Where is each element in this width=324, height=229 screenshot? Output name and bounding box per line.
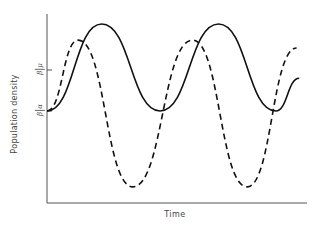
tick-label-lower: β α <box>35 104 45 116</box>
dashed-series-line <box>47 40 297 187</box>
tick-upper-denominator: β <box>36 71 44 75</box>
fraction-bar <box>35 69 45 70</box>
y-axis-label: Population density <box>10 74 19 153</box>
tick-lower-numerator: α <box>36 104 44 109</box>
tick-label-upper: β μ <box>35 63 45 75</box>
tick-upper-numerator: μ <box>36 63 44 68</box>
chart-canvas <box>0 0 324 229</box>
fraction-bar <box>35 110 45 111</box>
tick-lower-denominator: β <box>36 112 44 116</box>
x-axis-label: Time <box>164 210 186 219</box>
